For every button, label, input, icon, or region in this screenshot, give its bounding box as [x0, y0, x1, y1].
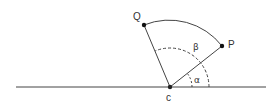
arc-beta [155, 48, 209, 87]
label-p: P [228, 39, 235, 50]
point-p [220, 44, 224, 48]
point-c [168, 85, 172, 89]
arc-qp [144, 20, 222, 46]
label-alpha: α [194, 75, 200, 85]
arc-alpha [187, 73, 192, 87]
label-q: Q [133, 11, 141, 22]
point-q [142, 23, 146, 27]
label-c: c [166, 92, 171, 103]
label-beta: β [193, 42, 199, 52]
diagram-canvas: Q P c β α [0, 0, 279, 106]
segment-cq [144, 25, 170, 87]
